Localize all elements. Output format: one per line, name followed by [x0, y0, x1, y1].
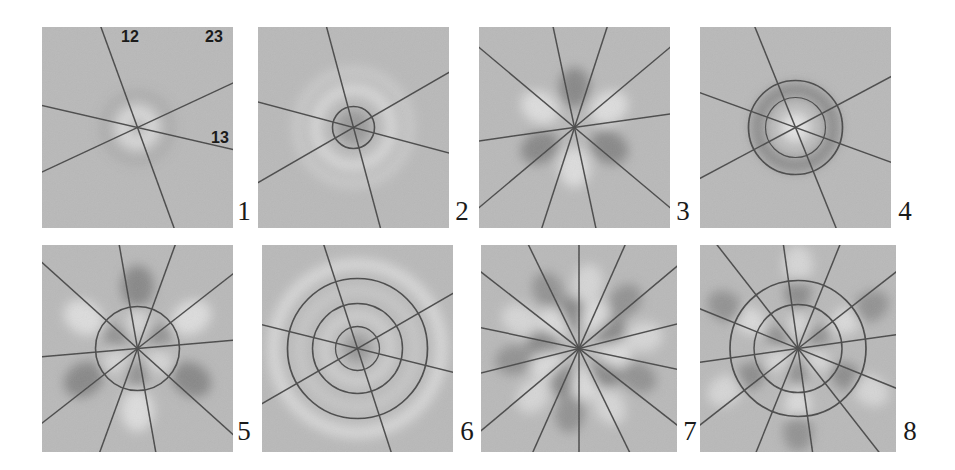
panel-2	[258, 27, 449, 228]
panel-6	[262, 245, 453, 452]
panel-number-2: 2	[450, 198, 474, 225]
panel-plot	[42, 245, 233, 452]
panel-plot	[42, 27, 233, 228]
panel-number-8: 8	[898, 418, 922, 445]
panel-number-5: 5	[232, 418, 256, 445]
panel-number-7: 7	[678, 418, 702, 445]
panel-plot	[700, 245, 896, 452]
panel-number-6: 6	[455, 418, 479, 445]
figure-canvas: 12345678122313	[0, 0, 955, 470]
panel-1	[42, 27, 233, 228]
panel-plot	[262, 245, 453, 452]
panel-plot	[258, 27, 449, 228]
panel-plot	[479, 27, 670, 228]
axis-label-23: 23	[205, 29, 223, 45]
panel-plot	[700, 27, 891, 228]
panel-4	[700, 27, 891, 228]
panel-number-3: 3	[671, 198, 695, 225]
axis-label-13: 13	[211, 130, 229, 146]
panel-plot	[481, 245, 677, 452]
panel-5	[42, 245, 233, 452]
panel-7	[481, 245, 677, 452]
panel-8	[700, 245, 896, 452]
panel-number-1: 1	[232, 198, 256, 225]
panel-3	[479, 27, 670, 228]
panel-number-4: 4	[893, 198, 917, 225]
axis-label-12: 12	[121, 29, 139, 45]
